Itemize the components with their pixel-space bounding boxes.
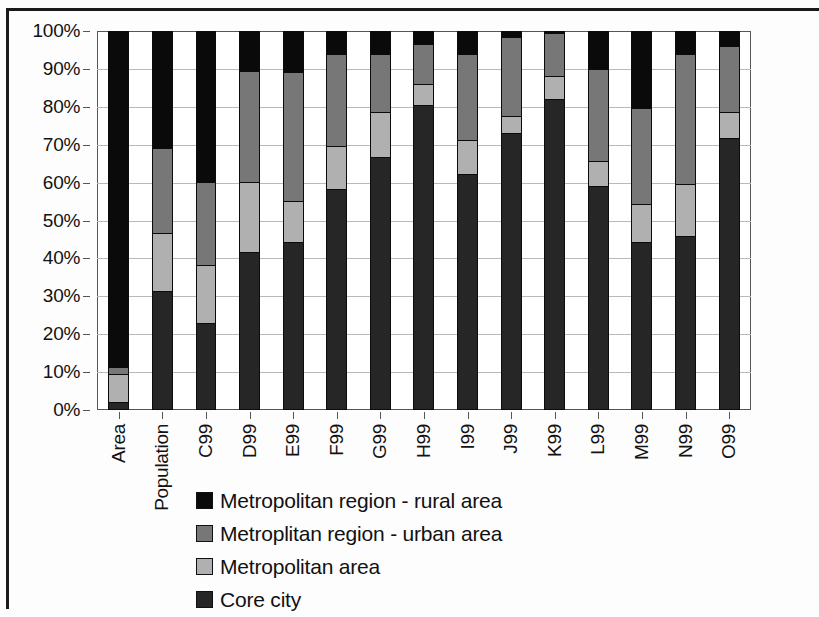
stacked-bar[interactable] bbox=[239, 31, 260, 410]
bar-segment bbox=[414, 106, 433, 409]
bar-segment bbox=[197, 32, 216, 183]
stacked-bar[interactable] bbox=[719, 31, 740, 410]
legend-item[interactable]: Metropolitan area bbox=[196, 550, 626, 583]
stacked-bar[interactable] bbox=[326, 31, 347, 410]
stacked-bar[interactable] bbox=[283, 31, 304, 410]
x-axis-tick-label: Area bbox=[108, 424, 130, 463]
bar-slot bbox=[533, 31, 577, 410]
bar-segment bbox=[327, 32, 346, 55]
y-axis-tick-mark bbox=[83, 145, 90, 146]
x-axis-tick: Area bbox=[97, 412, 141, 497]
y-axis-tick-label: 0% bbox=[53, 399, 80, 421]
stacked-bar[interactable] bbox=[544, 31, 565, 410]
bar-segment bbox=[197, 183, 216, 266]
plot-area bbox=[97, 31, 751, 410]
x-axis-tick: M99 bbox=[620, 412, 664, 497]
x-axis-tick-mark bbox=[729, 412, 730, 419]
bar-segment bbox=[414, 32, 433, 45]
legend-item-label: Metropolitan area bbox=[220, 555, 380, 579]
x-axis-tick-mark bbox=[119, 412, 120, 419]
x-axis-tick-mark bbox=[293, 412, 294, 419]
bar-segment bbox=[676, 32, 695, 55]
bar-slot bbox=[271, 31, 315, 410]
bar-segment bbox=[371, 158, 390, 409]
y-axis-tick-mark bbox=[83, 221, 90, 222]
bar-slot bbox=[620, 31, 664, 410]
legend-item[interactable]: Metropolitan region - rural area bbox=[196, 484, 626, 517]
bar-segment bbox=[632, 205, 651, 243]
y-axis-tick-mark bbox=[83, 296, 90, 297]
x-axis-tick-mark bbox=[424, 412, 425, 419]
stacked-bar[interactable] bbox=[457, 31, 478, 410]
bar-segment bbox=[632, 109, 651, 205]
bar-segment bbox=[676, 55, 695, 185]
stacked-bar[interactable] bbox=[588, 31, 609, 410]
bar-segment bbox=[327, 190, 346, 409]
legend-item[interactable]: Core city bbox=[196, 583, 626, 616]
x-axis-tick-mark bbox=[642, 412, 643, 419]
bar-segment bbox=[197, 266, 216, 324]
bar-slot bbox=[707, 31, 751, 410]
x-axis-tick-label: Population bbox=[151, 424, 173, 511]
legend-item-label: Core city bbox=[220, 588, 301, 612]
bar-segment bbox=[589, 32, 608, 70]
stacked-bar[interactable] bbox=[196, 31, 217, 410]
stacked-bar[interactable] bbox=[108, 31, 129, 410]
x-axis-tick-label: J99 bbox=[500, 424, 522, 454]
y-axis-tick-mark bbox=[83, 107, 90, 108]
y-axis-tick-label: 30% bbox=[43, 285, 80, 307]
bar-slot bbox=[489, 31, 533, 410]
x-axis-tick-mark bbox=[686, 412, 687, 419]
stacked-bar[interactable] bbox=[631, 31, 652, 410]
bar-segment bbox=[109, 375, 128, 403]
bar-segment bbox=[153, 149, 172, 234]
x-axis-tick-label: M99 bbox=[631, 424, 653, 460]
bar-segment bbox=[545, 77, 564, 100]
y-axis-tick-mark bbox=[83, 258, 90, 259]
x-axis-tick-label: H99 bbox=[413, 424, 435, 458]
x-axis-tick-mark bbox=[468, 412, 469, 419]
bar-slot bbox=[315, 31, 359, 410]
legend-item-label: Metroplitan region - urban area bbox=[220, 522, 502, 546]
bar-segment bbox=[284, 243, 303, 409]
x-axis-tick-label: D99 bbox=[239, 424, 261, 458]
bar-segment bbox=[632, 32, 651, 109]
x-axis-tick-mark bbox=[337, 412, 338, 419]
bar-segment bbox=[589, 70, 608, 162]
stacked-bar[interactable] bbox=[675, 31, 696, 410]
bar-segment bbox=[240, 72, 259, 183]
stacked-bar[interactable] bbox=[152, 31, 173, 410]
y-axis: 0%10%20%30%40%50%60%70%80%90%100% bbox=[10, 31, 90, 410]
legend-swatch-metro-area bbox=[196, 558, 213, 575]
bar-segment bbox=[284, 73, 303, 201]
bar-segment bbox=[545, 100, 564, 409]
legend-swatch-rural bbox=[196, 492, 213, 509]
bar-segment bbox=[632, 243, 651, 409]
bar-segment bbox=[589, 162, 608, 187]
y-axis-tick-mark bbox=[83, 334, 90, 335]
x-axis-tick-mark bbox=[250, 412, 251, 419]
y-axis-tick-mark bbox=[83, 31, 90, 32]
bar-segment bbox=[720, 113, 739, 139]
bar-segment bbox=[502, 117, 521, 134]
bar-segment bbox=[240, 32, 259, 72]
chart-figure: 0%10%20%30%40%50%60%70%80%90%100% AreaPo… bbox=[0, 0, 819, 617]
bar-segment bbox=[502, 38, 521, 117]
stacked-bar[interactable] bbox=[501, 31, 522, 410]
stacked-bar[interactable] bbox=[413, 31, 434, 410]
bar-segment bbox=[502, 134, 521, 409]
bar-segment bbox=[458, 141, 477, 175]
x-axis-tick: N99 bbox=[664, 412, 708, 497]
y-axis-tick-label: 10% bbox=[43, 361, 80, 383]
y-axis-tick-mark bbox=[83, 183, 90, 184]
x-axis-tick-mark bbox=[162, 412, 163, 419]
stacked-bar[interactable] bbox=[370, 31, 391, 410]
bar-slot bbox=[664, 31, 708, 410]
bar-segment bbox=[676, 185, 695, 238]
x-axis-tick-label: I99 bbox=[457, 424, 479, 450]
bar-segment bbox=[153, 234, 172, 292]
x-axis-tick-mark bbox=[598, 412, 599, 419]
x-axis-tick-label: N99 bbox=[675, 424, 697, 458]
legend-item[interactable]: Metroplitan region - urban area bbox=[196, 517, 626, 550]
bar-segment bbox=[371, 55, 390, 113]
